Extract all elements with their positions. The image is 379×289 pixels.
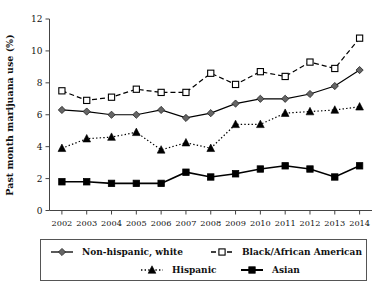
data-point bbox=[332, 65, 338, 71]
data-point bbox=[84, 179, 90, 185]
y-tick-label: 12 bbox=[31, 14, 42, 24]
x-tick-label: 2014 bbox=[349, 218, 370, 228]
data-point bbox=[332, 174, 338, 180]
legend-entries: Non-hispanic, whiteBlack/African America… bbox=[51, 247, 362, 275]
y-axis-ticks: 024681012 bbox=[31, 14, 49, 216]
y-axis-title-text: Past month marijuana use (%) bbox=[4, 34, 15, 195]
data-point bbox=[133, 180, 139, 186]
y-tick-label: 8 bbox=[37, 78, 43, 88]
legend-item[interactable]: Black/African American bbox=[211, 247, 362, 257]
series-layer bbox=[58, 35, 363, 187]
series-line bbox=[62, 38, 360, 100]
data-point bbox=[58, 106, 65, 113]
data-point bbox=[307, 166, 313, 172]
data-point bbox=[83, 108, 90, 115]
data-point bbox=[356, 35, 362, 41]
data-point bbox=[232, 171, 238, 177]
data-point bbox=[306, 107, 314, 114]
data-point bbox=[282, 163, 288, 169]
data-point bbox=[331, 106, 339, 113]
series-2 bbox=[59, 35, 363, 103]
data-point bbox=[207, 110, 214, 117]
data-point bbox=[232, 100, 239, 107]
x-tick-label: 2007 bbox=[176, 218, 197, 228]
chart-legend: Non-hispanic, whiteBlack/African America… bbox=[41, 240, 367, 281]
chart-figure: Past month marijuana use (%) 024681012 2… bbox=[0, 0, 379, 289]
legend-label: Black/African American bbox=[242, 247, 362, 257]
data-point bbox=[108, 180, 114, 186]
data-point bbox=[158, 106, 165, 113]
legend-label: Non-hispanic, white bbox=[82, 247, 183, 258]
data-point bbox=[132, 128, 140, 135]
legend-item[interactable]: Non-hispanic, white bbox=[51, 247, 183, 258]
y-tick-label: 10 bbox=[31, 46, 43, 56]
data-point bbox=[281, 109, 289, 116]
x-tick-label: 2003 bbox=[76, 218, 97, 228]
data-point bbox=[307, 59, 313, 65]
data-point bbox=[59, 88, 65, 94]
x-tick-label: 2010 bbox=[250, 218, 271, 228]
data-point bbox=[282, 73, 288, 79]
data-point bbox=[133, 86, 139, 92]
data-point bbox=[257, 120, 265, 127]
legend-label: Asian bbox=[271, 265, 300, 275]
data-point bbox=[282, 95, 289, 102]
data-point bbox=[232, 81, 238, 87]
data-point bbox=[108, 111, 115, 118]
y-axis-title: Past month marijuana use (%) bbox=[4, 34, 15, 195]
x-tick-label: 2002 bbox=[51, 218, 72, 228]
data-point bbox=[182, 138, 190, 145]
y-tick-label: 0 bbox=[37, 206, 43, 216]
data-point bbox=[356, 163, 362, 169]
data-point bbox=[158, 89, 164, 95]
x-axis-ticks: 2002200320042005200620072008200920102011… bbox=[51, 211, 370, 228]
x-tick-label: 2008 bbox=[200, 218, 221, 228]
legend-item[interactable]: Hispanic bbox=[141, 265, 217, 275]
legend-marker-icon bbox=[219, 249, 225, 255]
data-point bbox=[182, 114, 189, 121]
data-point bbox=[208, 70, 214, 76]
data-point bbox=[257, 166, 263, 172]
data-point bbox=[84, 97, 90, 103]
y-tick-label: 6 bbox=[37, 110, 43, 120]
legend-marker-icon bbox=[58, 248, 65, 255]
legend-marker-icon bbox=[249, 267, 255, 273]
x-tick-label: 2012 bbox=[300, 218, 321, 228]
data-point bbox=[331, 82, 338, 89]
data-point bbox=[257, 69, 263, 75]
data-point bbox=[133, 111, 140, 118]
marijuana-use-line-chart: Past month marijuana use (%) 024681012 2… bbox=[0, 0, 379, 289]
data-point bbox=[157, 146, 165, 153]
legend-label: Hispanic bbox=[172, 265, 217, 275]
x-tick-label: 2006 bbox=[151, 218, 172, 228]
data-point bbox=[356, 103, 364, 110]
y-tick-label: 2 bbox=[37, 174, 43, 184]
series-4 bbox=[59, 163, 363, 187]
y-tick-label: 4 bbox=[37, 142, 43, 152]
x-tick-label: 2004 bbox=[101, 218, 122, 228]
data-point bbox=[158, 180, 164, 186]
data-point bbox=[58, 144, 66, 151]
x-tick-label: 2013 bbox=[324, 218, 345, 228]
x-tick-label: 2005 bbox=[126, 218, 147, 228]
legend-item[interactable]: Asian bbox=[241, 265, 300, 275]
data-point bbox=[306, 90, 313, 97]
x-tick-label: 2011 bbox=[275, 218, 296, 228]
data-point bbox=[59, 179, 65, 185]
x-tick-label: 2009 bbox=[225, 218, 246, 228]
data-point bbox=[208, 174, 214, 180]
data-point bbox=[257, 95, 264, 102]
data-point bbox=[356, 66, 363, 73]
data-point bbox=[108, 94, 114, 100]
data-point bbox=[183, 169, 189, 175]
data-point bbox=[183, 89, 189, 95]
